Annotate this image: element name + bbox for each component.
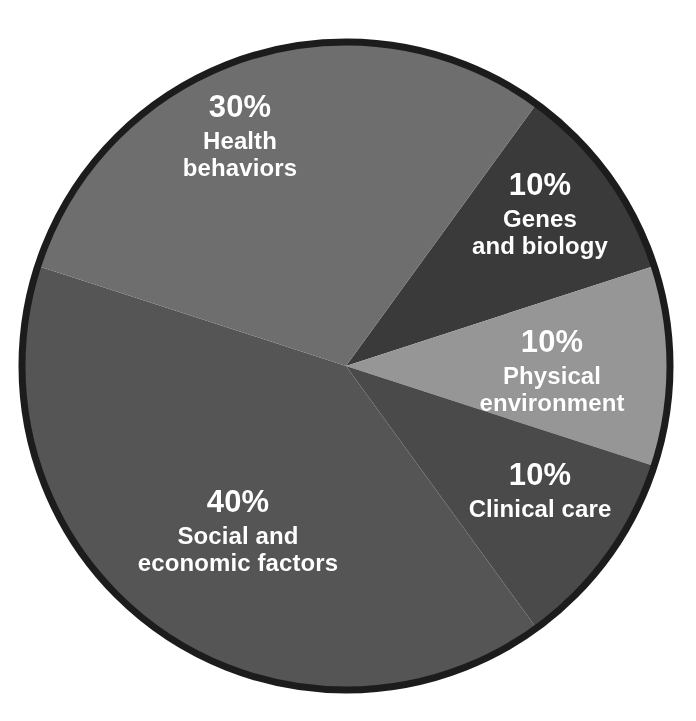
slice-name-health-behaviors: Health behaviors [130, 128, 350, 182]
pie-chart-figure: 30% Health behaviors 10% Genes and biolo… [0, 0, 696, 721]
slice-label-physical-environment: 10% Physical environment [452, 325, 652, 416]
slice-name-genes-and-biology: Genes and biology [440, 206, 640, 260]
slice-name-clinical-care: Clinical care [440, 496, 640, 523]
slice-name-social-and-economic-factors: Social and economic factors [88, 523, 388, 577]
slice-label-health-behaviors: 30% Health behaviors [130, 90, 350, 181]
slice-label-clinical-care: 10% Clinical care [440, 458, 640, 523]
slice-percent-physical-environment: 10% [452, 325, 652, 360]
slice-percent-clinical-care: 10% [440, 458, 640, 493]
slice-name-physical-environment: Physical environment [452, 363, 652, 417]
slice-percent-social-and-economic-factors: 40% [88, 485, 388, 520]
slice-label-social-and-economic-factors: 40% Social and economic factors [88, 485, 388, 576]
slice-percent-genes-and-biology: 10% [440, 168, 640, 203]
slice-percent-health-behaviors: 30% [130, 90, 350, 125]
slice-label-genes-and-biology: 10% Genes and biology [440, 168, 640, 259]
